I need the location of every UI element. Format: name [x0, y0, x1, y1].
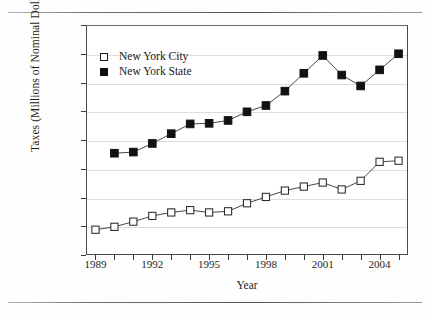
- x-axis-tick-label: 1992: [141, 258, 163, 270]
- x-axis-tick-mark: [304, 255, 305, 260]
- x-axis-tick-mark: [228, 255, 229, 260]
- legend-item-new-york-city: New York City: [100, 49, 192, 64]
- y-axis-tick-mark: [81, 255, 86, 256]
- x-axis-tick-mark: [133, 255, 134, 260]
- x-axis-tick-mark: [190, 255, 191, 260]
- x-axis-tick-mark: [285, 255, 286, 260]
- y-axis-tick-mark: [81, 111, 86, 112]
- x-axis-tick-mark: [114, 255, 115, 260]
- chart-figure: Taxes (Millions of Nominal Dollars) Year…: [0, 0, 430, 315]
- legend-label: New York City: [119, 49, 188, 64]
- x-axis-tick-mark: [342, 255, 343, 260]
- y-axis-tick-mark: [81, 83, 86, 84]
- x-axis-tick-mark: [247, 255, 248, 260]
- bottom-divider-rule: [8, 302, 422, 303]
- x-axis-tick-mark: [171, 255, 172, 260]
- y-axis-title: Taxes (Millions of Nominal Dollars): [29, 0, 41, 181]
- x-axis-tick-label: 2001: [312, 258, 334, 270]
- y-axis-tick-mark: [81, 54, 86, 55]
- y-axis-tick-mark: [81, 140, 86, 141]
- legend-item-new-york-state: New York State: [100, 64, 192, 79]
- x-axis-tick-mark: [361, 255, 362, 260]
- chart-legend: New York City New York State: [100, 49, 192, 79]
- y-axis-tick-mark: [81, 226, 86, 227]
- gridline: [87, 141, 407, 142]
- gridline: [87, 199, 407, 200]
- top-divider-rule: [8, 12, 422, 13]
- gridline: [87, 84, 407, 85]
- x-axis-tick-label: 1998: [255, 258, 277, 270]
- legend-label: New York State: [119, 64, 192, 79]
- y-axis-tick-mark: [81, 198, 86, 199]
- gridline: [87, 227, 407, 228]
- x-axis-tick-label: 2004: [369, 258, 391, 270]
- x-axis-tick-label: 1995: [198, 258, 220, 270]
- x-axis-title: Year: [86, 279, 408, 291]
- x-axis-tick-mark: [399, 255, 400, 260]
- y-axis-tick-mark: [81, 25, 86, 26]
- y-axis-tick-mark: [81, 169, 86, 170]
- gridline: [87, 170, 407, 171]
- gridline: [87, 112, 407, 113]
- filled-square-marker-icon: [100, 68, 108, 76]
- x-axis-tick-label: 1989: [84, 258, 106, 270]
- open-square-marker-icon: [100, 53, 108, 61]
